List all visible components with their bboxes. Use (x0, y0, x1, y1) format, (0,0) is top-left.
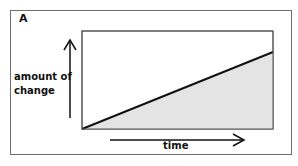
chart-graphic (0, 0, 298, 166)
y-axis-arrow (64, 40, 76, 118)
x-axis-arrow (110, 134, 244, 146)
